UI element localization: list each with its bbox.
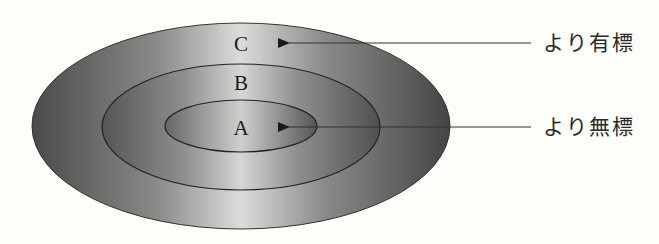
label-more-marked: より有標 xyxy=(543,33,635,54)
label-more-unmarked: より無標 xyxy=(543,117,635,138)
region-label-b: B xyxy=(234,71,248,95)
region-label-c: C xyxy=(234,32,248,56)
region-label-a: A xyxy=(233,116,249,140)
